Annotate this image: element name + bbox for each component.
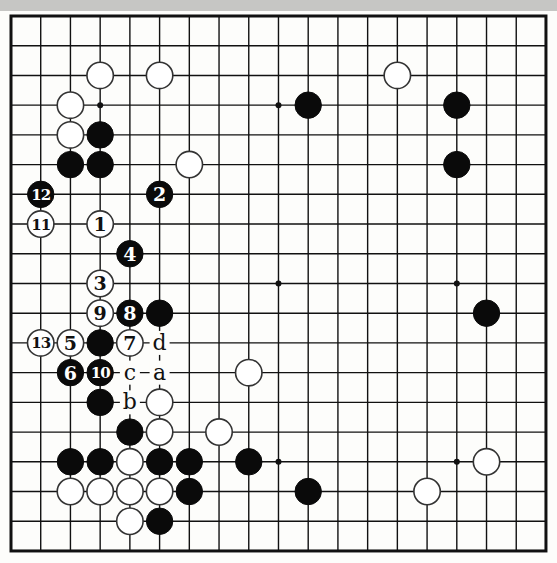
black-stone xyxy=(57,151,83,177)
white-stone-number-3: 3 xyxy=(94,272,107,294)
black-stone xyxy=(236,449,262,475)
point-label-c: c xyxy=(124,360,136,385)
black-stone xyxy=(87,449,113,475)
star-point xyxy=(97,102,103,108)
black-stone xyxy=(57,449,83,475)
white-stone xyxy=(384,62,410,88)
black-stone xyxy=(473,300,499,326)
white-stone xyxy=(117,508,143,534)
white-stone xyxy=(236,359,262,385)
white-stone xyxy=(146,389,172,415)
white-stone xyxy=(473,449,499,475)
black-stone xyxy=(176,449,202,475)
black-stone xyxy=(295,92,321,118)
black-stone xyxy=(87,122,113,148)
white-stone-number-1: 1 xyxy=(94,213,107,235)
white-stone xyxy=(146,478,172,504)
black-stone-number-2: 2 xyxy=(153,183,166,205)
black-stone-number-8: 8 xyxy=(123,302,136,324)
point-label-b: b xyxy=(123,389,137,414)
black-stone xyxy=(146,300,172,326)
black-stone xyxy=(146,449,172,475)
white-stone xyxy=(117,449,143,475)
black-stone xyxy=(146,508,172,534)
white-stone xyxy=(146,62,172,88)
white-stone xyxy=(206,419,232,445)
white-stone-number-5: 5 xyxy=(64,332,77,354)
white-stone xyxy=(176,151,202,177)
black-stone xyxy=(87,151,113,177)
go-board: dcab12211143981357610 xyxy=(0,0,557,563)
black-stone-number-12: 12 xyxy=(31,186,50,204)
white-stone xyxy=(57,122,83,148)
white-stone-number-11: 11 xyxy=(31,216,50,234)
point-label-a: a xyxy=(153,360,166,385)
star-point xyxy=(275,459,281,465)
white-stone xyxy=(57,92,83,118)
black-stone xyxy=(117,419,143,445)
white-stone-number-9: 9 xyxy=(94,302,107,324)
white-stone xyxy=(57,478,83,504)
black-stone xyxy=(444,92,470,118)
black-stone-number-6: 6 xyxy=(64,362,77,384)
point-label-d: d xyxy=(153,330,167,355)
white-stone xyxy=(87,478,113,504)
white-stone xyxy=(414,478,440,504)
black-stone xyxy=(176,478,202,504)
black-stone xyxy=(87,389,113,415)
white-stone-number-13: 13 xyxy=(31,334,50,352)
white-stone xyxy=(117,478,143,504)
black-stone-number-10: 10 xyxy=(91,364,110,382)
star-point xyxy=(275,102,281,108)
white-stone xyxy=(146,419,172,445)
black-stone xyxy=(87,330,113,356)
star-point xyxy=(454,459,460,465)
black-stone xyxy=(444,151,470,177)
black-stone xyxy=(295,478,321,504)
black-stone-number-4: 4 xyxy=(123,243,136,265)
star-point xyxy=(454,280,460,286)
white-stone xyxy=(87,62,113,88)
star-point xyxy=(275,280,281,286)
white-stone-number-7: 7 xyxy=(123,332,136,354)
